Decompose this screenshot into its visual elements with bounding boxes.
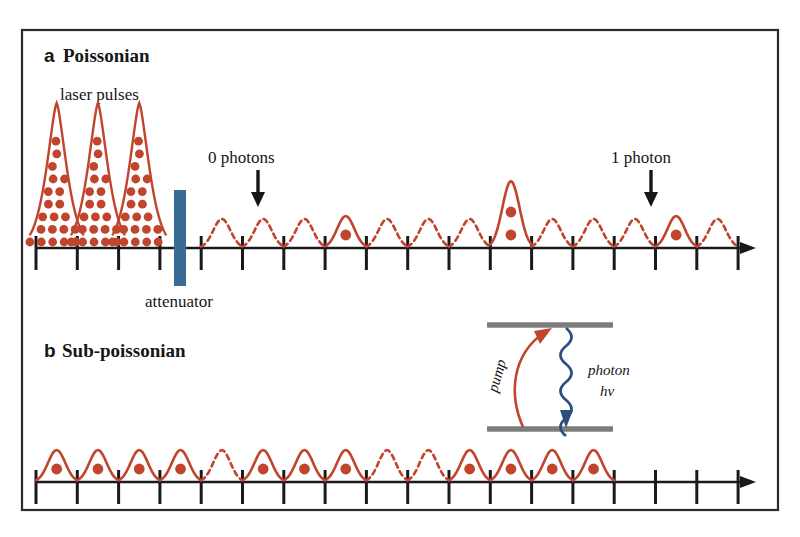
photon-dot (299, 464, 310, 475)
attenuator-bar (174, 190, 186, 286)
photon-dot (38, 212, 47, 221)
panel-b-title: Sub-poissonian (62, 340, 186, 361)
photon-dot (132, 212, 141, 221)
figure-canvas: a Poissonian laser pulses 0 photons 1 ph… (0, 0, 800, 537)
photon-dot (55, 200, 64, 209)
zero-photons-label: 0 photons (208, 148, 275, 167)
photon-dot (94, 149, 103, 158)
photon-dot (127, 200, 136, 209)
photon-dot (131, 162, 140, 171)
photon-dot (138, 200, 147, 209)
photon-dot (101, 225, 110, 234)
photon-dot (506, 464, 517, 475)
photon-dot (144, 212, 153, 221)
photon-label: photon (587, 362, 630, 378)
photon-dot (135, 149, 144, 158)
photon-dot (90, 175, 99, 184)
photon-dot (85, 200, 94, 209)
photon-dot (97, 187, 106, 196)
photon-dot (93, 137, 102, 146)
laser-pulses-label: laser pulses (60, 85, 139, 104)
photon-dot (108, 238, 117, 247)
photon-dot (52, 137, 61, 146)
photon-dot (78, 225, 87, 234)
photon-dot (48, 162, 57, 171)
photon-dot (44, 187, 53, 196)
photon-dot (37, 225, 46, 234)
photon-dot (90, 238, 99, 247)
photon-dot (89, 225, 98, 234)
photon-dot (50, 212, 59, 221)
photon-dot (134, 464, 145, 475)
photon-dot (134, 137, 143, 146)
photon-dot (67, 238, 76, 247)
photon-dot (85, 187, 94, 196)
photon-dot (506, 230, 517, 241)
photon-dot (49, 175, 58, 184)
photon-dot (120, 238, 129, 247)
photon-dot (506, 207, 517, 218)
panel-a-title: Poissonian (63, 45, 150, 66)
photon-dot (44, 200, 53, 209)
photon-dot (26, 238, 35, 247)
photon-dot (101, 175, 110, 184)
photon-dot (340, 464, 351, 475)
photon-dot (671, 230, 682, 241)
photon-dot (37, 238, 46, 247)
photon-dot (51, 464, 62, 475)
photon-dot (154, 238, 163, 247)
photon-dot (588, 464, 599, 475)
photon-energy-label: hv (600, 383, 615, 399)
one-photon-label: 1 photon (611, 148, 671, 167)
photon-dot (52, 149, 61, 158)
photon-dot (97, 200, 106, 209)
photon-dot (131, 175, 140, 184)
photon-dot (126, 187, 135, 196)
photon-dot (102, 212, 111, 221)
photon-dot (119, 225, 128, 234)
photon-dot (60, 175, 69, 184)
photon-dot (153, 225, 162, 234)
photon-dot (131, 225, 140, 234)
attenuator-label: attenuator (145, 292, 213, 311)
photon-dot (340, 230, 351, 241)
photon-dot (59, 225, 68, 234)
photon-dot (464, 464, 475, 475)
photon-dot (48, 238, 57, 247)
panel-b-letter: b (44, 340, 56, 361)
photon-dot (138, 187, 147, 196)
photon-dot (89, 162, 98, 171)
photon-dot (258, 464, 269, 475)
photon-dot (547, 464, 558, 475)
photon-dot (93, 464, 104, 475)
photon-dot (175, 464, 186, 475)
panel-a-letter: a (44, 45, 55, 66)
photon-dot (131, 238, 140, 247)
photon-dot (78, 238, 87, 247)
photon-dot (91, 212, 100, 221)
photon-dot (48, 225, 57, 234)
photon-dot (61, 212, 70, 221)
photon-dot (121, 212, 130, 221)
photon-dot (55, 187, 64, 196)
photon-dot (143, 175, 152, 184)
photon-dot (142, 238, 151, 247)
photon-dot (80, 212, 89, 221)
figure-root: a Poissonian laser pulses 0 photons 1 ph… (0, 0, 800, 537)
photon-dot (142, 225, 151, 234)
